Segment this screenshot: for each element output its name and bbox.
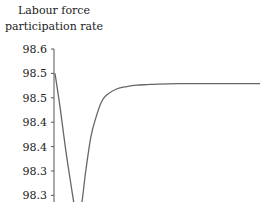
y-tick-label: 98.5	[23, 67, 48, 80]
y-tick-label: 98.4	[23, 141, 48, 154]
series-line	[55, 73, 260, 202]
y-tick-label: 98.6	[23, 43, 48, 56]
y-tick-label: 98.4	[23, 116, 48, 129]
y-tick-label: 98.5	[23, 92, 48, 105]
line-chart: 98.698.598.598.498.498.398.3	[0, 0, 274, 202]
y-tick-label: 98.3	[23, 189, 48, 202]
y-tick-label: 98.3	[23, 165, 48, 178]
